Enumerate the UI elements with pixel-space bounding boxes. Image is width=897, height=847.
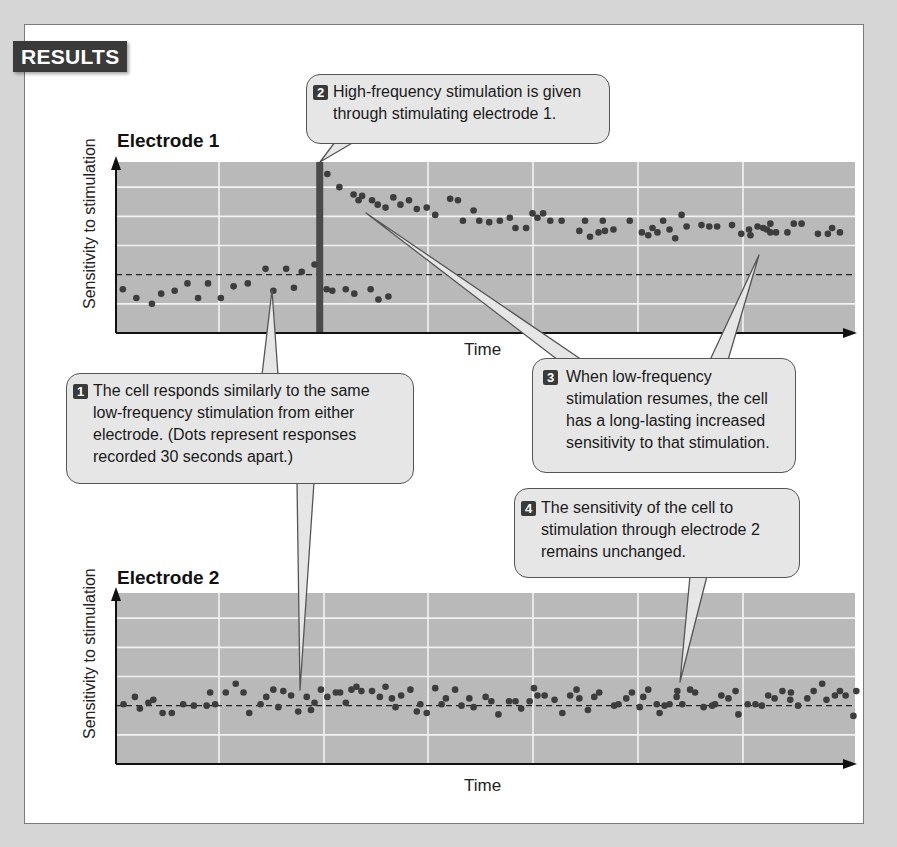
electrode-2-data-point	[679, 701, 686, 708]
electrode-2-data-point	[257, 701, 264, 708]
electrode-2-data-point	[180, 701, 187, 708]
electrode-2-data-point	[744, 701, 751, 708]
callout-4-line: stimulation through electrode 2	[541, 519, 789, 541]
electrode-1-data-point	[291, 284, 298, 291]
electrode-2-data-point	[518, 705, 525, 712]
callout-1-line: electrode. (Dots represent responses	[93, 424, 403, 446]
electrode-2-data-point	[850, 713, 857, 720]
electrode-1-data-point	[666, 226, 673, 233]
callout-4: 4 The sensitivity of the cell to stimula…	[514, 488, 800, 578]
electrode-2-data-point	[656, 710, 663, 717]
step-number-2: 2	[313, 85, 328, 100]
electrode-2-data-point	[150, 697, 157, 704]
electrode-1-data-point	[654, 229, 661, 236]
callout-3-line: has a long-lasting increased	[566, 410, 785, 432]
electrode-1-data-point	[829, 225, 836, 232]
electrode-1-data-point	[120, 286, 127, 293]
electrode-2-data-point	[392, 704, 399, 711]
electrode-1-data-point	[262, 266, 269, 273]
electrode-2-data-point	[759, 702, 766, 709]
electrode-1-data-point	[359, 193, 366, 200]
electrode-2-data-point	[541, 692, 548, 699]
electrode-2-data-point	[488, 698, 495, 705]
electrode-2-data-point	[623, 695, 630, 702]
electrode-2-data-point	[222, 689, 229, 696]
electrode-2-data-point	[653, 701, 660, 708]
electrode-1-data-point	[351, 290, 358, 297]
electrode-1-data-point	[576, 228, 583, 235]
electrode-2-data-point	[567, 692, 574, 699]
electrode-2-data-point	[795, 702, 802, 709]
callout-1-line: recorded 30 seconds apart.)	[93, 446, 403, 468]
electrode-1-data-point	[747, 232, 754, 239]
callout-2-line: through stimulating electrode 1.	[333, 103, 599, 125]
electrode-2-data-point	[573, 686, 580, 693]
electrode-1-data-point	[406, 197, 413, 204]
electrode-1-data-point	[390, 194, 397, 201]
electrode-2-data-point	[318, 686, 325, 693]
electrode-1-data-point	[171, 287, 178, 294]
callout-3: 3 When low-frequency stimulation resumes…	[532, 358, 796, 473]
electrode-1-data-point	[837, 229, 844, 236]
electrode-1-data-point	[645, 232, 652, 239]
callout-4-line: remains unchanged.	[541, 541, 789, 563]
electrode-2-data-point	[752, 701, 759, 708]
callout-3-line: When low-frequency	[566, 366, 785, 388]
electrode-2-data-point	[735, 711, 742, 718]
electrode-1-data-point	[602, 228, 609, 235]
step-number-4: 4	[521, 501, 536, 516]
electrode-2-data-point	[191, 702, 198, 709]
electrode-1-data-point	[432, 212, 439, 219]
electrode-2-data-point	[771, 695, 778, 702]
electrode-2-data-point	[382, 683, 389, 690]
electrode-1-data-point	[698, 222, 705, 229]
electrode-2-data-point	[725, 695, 732, 702]
electrode-1-data-point	[397, 201, 404, 208]
electrode-2-data-point	[596, 689, 603, 696]
electrode-2-data-point	[288, 692, 295, 699]
electrode-1-data-point	[534, 214, 541, 221]
electrode-1-data-point	[529, 210, 536, 217]
electrode-2-data-point	[636, 704, 643, 711]
electrode-2-data-point	[398, 692, 405, 699]
electrode-2-data-point	[443, 695, 450, 702]
electrode-2-data-point	[280, 688, 287, 695]
electrode-2-data-point	[837, 688, 844, 695]
electrode-2-data-point	[308, 707, 315, 714]
electrode-1-data-point	[767, 229, 774, 236]
electrode-1-data-point	[413, 206, 420, 213]
electrode-2-data-point	[804, 695, 811, 702]
electrode-2-data-point	[169, 710, 176, 717]
electrode-2-data-point	[342, 699, 349, 706]
electrode-2-data-point	[674, 688, 681, 695]
electrode-1-data-point	[323, 286, 330, 293]
electrode-2-data-point	[712, 701, 719, 708]
electrode-2-data-point	[495, 711, 502, 718]
electrode-2-data-point	[369, 688, 376, 695]
electrode-1-data-point	[486, 219, 493, 226]
electrode-1-data-point	[798, 220, 805, 227]
electrode-2-data-point	[506, 698, 513, 705]
electrode-1-data-point	[506, 214, 513, 221]
electrode-2-data-point	[512, 698, 519, 705]
electrode-1-data-point	[678, 212, 685, 219]
electrode-1-data-point	[649, 225, 656, 232]
electrode-2-data-point	[203, 702, 210, 709]
electrode-2-data-point	[337, 689, 344, 696]
step-number-1: 1	[73, 384, 88, 399]
electrode-1-data-point	[329, 287, 336, 294]
electrode-2-data-point	[132, 694, 139, 701]
electrode-1-data-point	[158, 290, 165, 297]
electrode-2-data-point	[458, 702, 465, 709]
electrode-1-data-point	[367, 286, 374, 293]
electrode-2-data-point	[645, 686, 652, 693]
electrode-2-data-point	[842, 692, 849, 699]
electrode-1-data-point	[218, 295, 225, 302]
callout-1: 1 The cell responds similarly to the sam…	[66, 373, 414, 484]
callout-3-line: sensitivity to that stimulation.	[566, 432, 785, 454]
electrode-1-data-point	[825, 231, 832, 238]
electrode-2-data-point	[732, 688, 739, 695]
electrode-1-stimulation-bar	[316, 162, 323, 333]
electrode-1-data-point	[184, 280, 191, 287]
electrode-2-data-point	[534, 692, 541, 699]
